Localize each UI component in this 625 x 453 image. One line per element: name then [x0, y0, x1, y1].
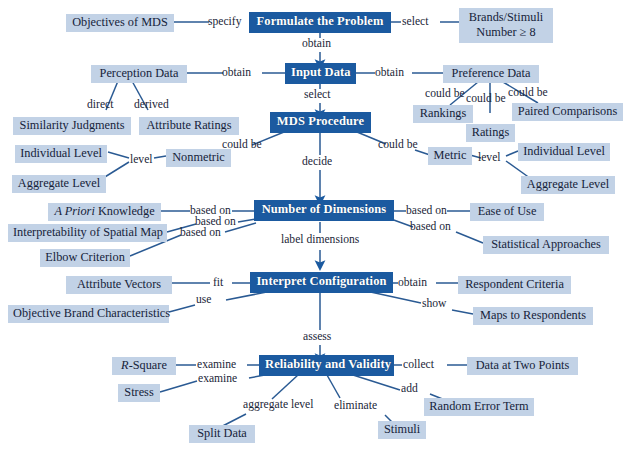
edge-label-level-right: level — [478, 152, 501, 164]
node-metric[interactable]: Metric — [428, 147, 472, 165]
node-attribute-vectors[interactable]: Attribute Vectors — [66, 276, 172, 294]
node-objective-brand-characteristics[interactable]: Objective Brand Characteristics — [8, 305, 169, 323]
edge-label-direct: direct — [87, 99, 113, 111]
node-elbow-criterion[interactable]: Elbow Criterion — [40, 249, 130, 267]
node-paired-comparisons[interactable]: Paired Comparisons — [512, 103, 623, 121]
brands-stimuli-line2: Number ≥ 8 — [476, 25, 535, 39]
concept-map-canvas: Formulate the Problem Input Data MDS Pro… — [0, 0, 625, 453]
edge-level-individual-right — [506, 151, 518, 156]
edge-stress-examine — [160, 381, 197, 392]
node-split-data[interactable]: Split Data — [189, 425, 255, 443]
edge-label-obtain-respondent: obtain — [398, 277, 427, 289]
edge-reliability-add — [353, 375, 400, 390]
edge-label-decide: decide — [302, 156, 332, 168]
edge-label-assess: assess — [303, 331, 331, 343]
node-stimuli[interactable]: Stimuli — [378, 421, 426, 439]
edge-label-obtain-perception: obtain — [222, 67, 251, 79]
node-aggregate-level-right[interactable]: Aggregate Level — [521, 176, 615, 194]
edge-label-fit: fit — [213, 277, 223, 289]
edge-label-couldbe-rankings: could be — [425, 88, 465, 100]
brands-stimuli-line1: Brands/Stimuli — [469, 10, 543, 24]
edge-label-aggregate-level: aggregate level — [243, 399, 314, 411]
node-perception-data[interactable]: Perception Data — [91, 65, 187, 83]
node-attribute-ratings[interactable]: Attribute Ratings — [139, 117, 239, 135]
edge-label-basedon-ease: based on — [406, 205, 447, 217]
edge-label-label-dimensions: label dimensions — [281, 234, 359, 246]
a-priori-italic: A Priori — [54, 204, 94, 218]
node-individual-level-right[interactable]: Individual Level — [518, 143, 610, 161]
edge-label-couldbe-ratings: could be — [466, 93, 506, 105]
edge-label-show: show — [422, 298, 446, 310]
node-stress[interactable]: Stress — [118, 384, 160, 402]
edge-label-examine-stress: examine — [198, 373, 237, 385]
edge-basedon-statistical — [456, 232, 483, 243]
edge-objbrand-use — [169, 305, 195, 312]
node-brands-stimuli[interactable]: Brands/Stimuli Number ≥ 8 — [459, 8, 553, 43]
edge-label-obtain-preference: obtain — [375, 67, 404, 79]
edge-level-individual-left — [108, 152, 129, 158]
node-nonmetric[interactable]: Nonmetric — [166, 149, 231, 167]
node-ease-of-use[interactable]: Ease of Use — [470, 203, 544, 221]
node-a-priori-knowledge[interactable]: A Priori Knowledge — [48, 203, 161, 221]
node-formulate-the-problem[interactable]: Formulate the Problem — [249, 12, 391, 33]
node-number-of-dimensions[interactable]: Number of Dimensions — [254, 200, 394, 221]
edge-nonmetric-level — [154, 156, 166, 158]
node-maps-to-respondents[interactable]: Maps to Respondents — [473, 307, 593, 325]
node-rankings[interactable]: Rankings — [413, 105, 473, 123]
node-r-square[interactable]: R-Square — [112, 357, 176, 375]
edge-label-specify: specify — [208, 16, 241, 28]
edge-label-select-brands: select — [402, 16, 428, 28]
node-random-error-term[interactable]: Random Error Term — [424, 398, 534, 416]
edge-label-select-mds: select — [304, 89, 330, 101]
node-interpret-configuration[interactable]: Interpret Configuration — [250, 272, 393, 293]
node-reliability-and-validity[interactable]: Reliability and Validity — [259, 355, 394, 376]
edge-label-add: add — [401, 383, 418, 395]
edge-reliability-aggregate — [272, 375, 298, 399]
r-square-rest: -Square — [129, 358, 167, 372]
node-data-at-two-points[interactable]: Data at Two Points — [467, 357, 578, 375]
edge-label-couldbe-metric: could be — [378, 139, 418, 151]
edge-label-eliminate: eliminate — [334, 400, 377, 412]
node-aggregate-level-left[interactable]: Aggregate Level — [12, 175, 106, 193]
edge-show-maps — [452, 310, 473, 314]
edge-label-obtain-formulate: obtain — [302, 38, 331, 50]
edge-label-derived: derived — [134, 99, 169, 111]
edge-label-level-left: level — [130, 154, 153, 166]
node-similarity-judgments[interactable]: Similarity Judgments — [13, 117, 131, 135]
edge-label-basedon-statistical: based on — [410, 221, 451, 233]
edge-label-collect: collect — [403, 359, 434, 371]
a-priori-rest: Knowledge — [95, 204, 155, 218]
edge-label-basedon-elbow: based on — [180, 227, 221, 239]
edge-label-use: use — [196, 294, 211, 306]
node-objectives-of-mds[interactable]: Objectives of MDS — [66, 14, 174, 32]
node-mds-procedure[interactable]: MDS Procedure — [270, 112, 371, 133]
node-input-data[interactable]: Input Data — [285, 63, 356, 84]
r-square-italic: R — [121, 358, 129, 372]
node-individual-level-left[interactable]: Individual Level — [15, 145, 107, 163]
edge-interpret-show — [366, 291, 421, 303]
node-ratings[interactable]: Ratings — [466, 124, 515, 142]
edge-label-couldbe-paired: could be — [508, 87, 548, 99]
edge-reliability-eliminate — [327, 375, 340, 398]
edge-label-couldbe-nonmetric: could be — [222, 139, 262, 151]
edge-label-examine-rsquare: examine — [197, 359, 236, 371]
node-respondent-criteria[interactable]: Respondent Criteria — [458, 276, 571, 294]
node-interpretability-of-spatial-map[interactable]: Interpretability of Spatial Map — [8, 224, 167, 242]
node-statistical-approaches[interactable]: Statistical Approaches — [483, 236, 609, 254]
node-preference-data[interactable]: Preference Data — [443, 65, 539, 83]
